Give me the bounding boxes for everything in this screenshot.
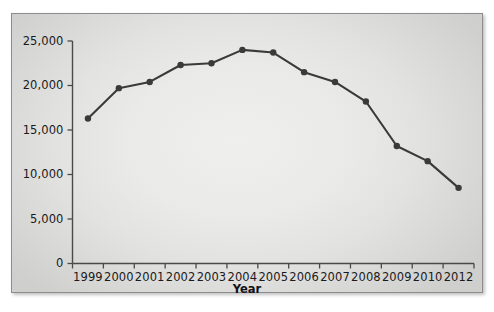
y-axis-tick-label: 0 <box>0 256 64 270</box>
y-axis-tick-label: 5,000 <box>0 212 64 226</box>
y-axis-tick-label: 10,000 <box>0 167 64 181</box>
chart-panel <box>11 13 483 293</box>
y-axis-tick-label: 20,000 <box>0 78 64 92</box>
x-axis-title: Year <box>0 282 494 296</box>
y-axis-tick-label: 25,000 <box>0 34 64 48</box>
y-axis-tick-label: 15,000 <box>0 123 64 137</box>
chart-figure: 05,00010,00015,00020,00025,000 199920002… <box>0 0 494 312</box>
